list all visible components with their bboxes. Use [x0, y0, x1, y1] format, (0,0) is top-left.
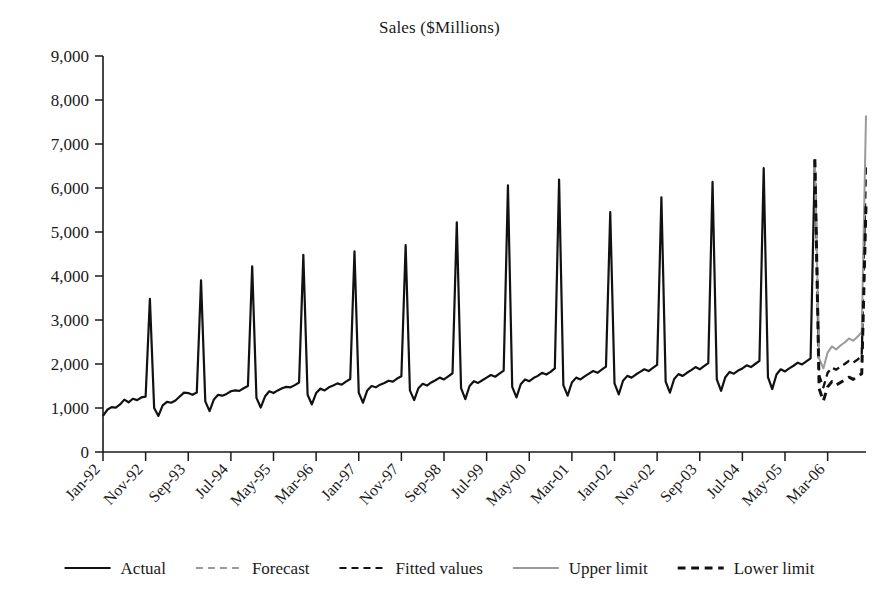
legend-label-fitted-values: Fitted values	[395, 559, 482, 578]
y-axis-tick-label: 2,000	[51, 355, 89, 374]
series-line-forecast	[815, 159, 866, 387]
y-axis-tick-label: 5,000	[51, 223, 89, 242]
x-axis-tick-label: Mar-96	[271, 460, 316, 506]
x-axis-tick-label: Sep-03	[657, 460, 701, 505]
x-axis-tick-label: Jan-97	[317, 460, 359, 503]
legend-label-actual: Actual	[121, 559, 167, 578]
y-axis-tick-label: 3,000	[51, 311, 89, 330]
legend-label-forecast: Forecast	[252, 559, 310, 578]
x-axis-tick-label: Mar-06	[783, 460, 828, 506]
data-series-group	[103, 115, 866, 416]
x-axis-tick-label: May-00	[482, 460, 530, 509]
sales-forecast-chart: Sales ($Millions) 01,0002,0003,0004,0005…	[0, 0, 879, 598]
series-line-actual	[103, 159, 815, 416]
x-axis-tick-label: Sep-93	[145, 460, 189, 505]
y-axis-tick-label: 9,000	[51, 47, 89, 66]
x-axis: Jan-92Nov-92Sep-93Jul-94May-95Mar-96Jan-…	[62, 452, 866, 510]
x-axis-tick-label: Jul-99	[447, 460, 487, 501]
x-axis-tick-label: Nov-02	[612, 460, 658, 507]
x-axis-tick-label: Nov-92	[100, 460, 146, 507]
series-line-fitted-values	[815, 159, 866, 387]
x-axis-tick-label: May-05	[738, 460, 786, 509]
x-axis-tick-label: Nov-97	[356, 460, 402, 507]
chart-plot-area: 01,0002,0003,0004,0005,0006,0007,0008,00…	[0, 0, 879, 598]
x-axis-tick-label: Sep-98	[401, 460, 445, 505]
y-axis-tick-label: 0	[81, 443, 90, 462]
y-axis-tick-label: 1,000	[51, 399, 89, 418]
x-axis-tick-label: Jan-92	[62, 460, 104, 503]
chart-legend: ActualForecastFitted valuesUpper limitLo…	[65, 559, 815, 578]
x-axis-tick-label: Jan-02	[573, 460, 615, 503]
x-axis-tick-label: Mar-01	[527, 460, 572, 506]
x-axis-tick-label: Jul-04	[703, 460, 743, 501]
y-axis: 01,0002,0003,0004,0005,0006,0007,0008,00…	[51, 47, 103, 462]
y-axis-tick-label: 6,000	[51, 179, 89, 198]
x-axis-tick-label: May-95	[227, 460, 275, 509]
x-axis-tick-label: Jul-94	[191, 460, 231, 501]
y-axis-tick-label: 7,000	[51, 135, 89, 154]
legend-label-upper-limit: Upper limit	[569, 559, 648, 578]
legend-label-lower-limit: Lower limit	[734, 559, 815, 578]
y-axis-tick-label: 4,000	[51, 267, 89, 286]
series-line-upper-limit	[815, 115, 866, 368]
y-axis-tick-label: 8,000	[51, 91, 89, 110]
